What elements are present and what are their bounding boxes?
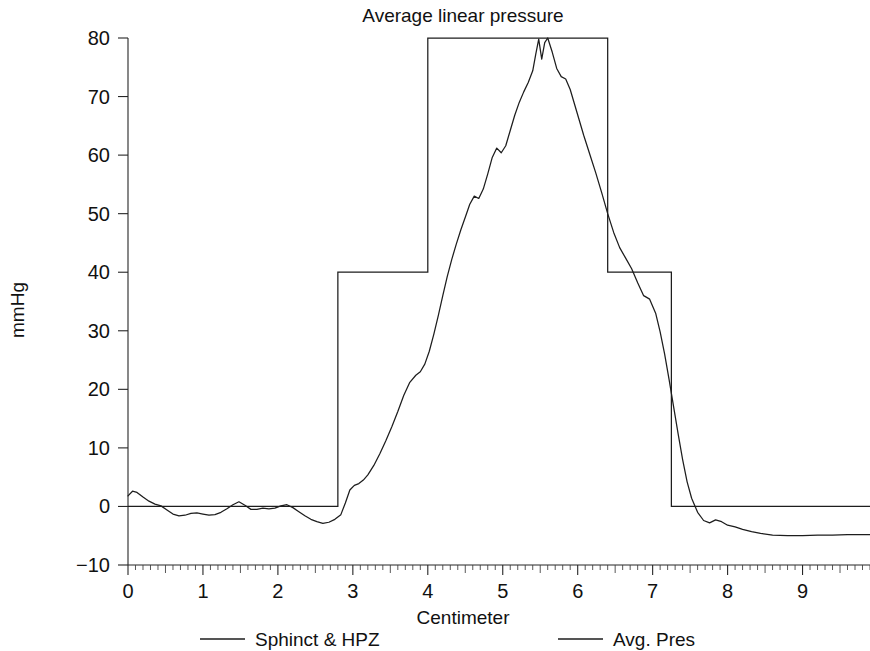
chart-title: Average linear pressure bbox=[362, 5, 563, 26]
series-avg-pres bbox=[128, 38, 870, 536]
chart-container: Average linear pressure mmHg Centimeter … bbox=[0, 0, 870, 651]
y-tick-label: 80 bbox=[88, 27, 110, 49]
x-tick-label: 3 bbox=[347, 580, 358, 602]
y-tick-label: −10 bbox=[76, 554, 110, 576]
y-tick-label: 20 bbox=[88, 378, 110, 400]
data-series-group bbox=[128, 38, 870, 536]
y-tick-label: 60 bbox=[88, 144, 110, 166]
x-tick-label: 0 bbox=[122, 580, 133, 602]
y-axis-label: mmHg bbox=[7, 282, 28, 338]
average-linear-pressure-chart: Average linear pressure mmHg Centimeter … bbox=[0, 0, 870, 651]
y-tick-label: 10 bbox=[88, 437, 110, 459]
legend-label-avg-pres: Avg. Pres bbox=[613, 629, 695, 650]
x-tick-label: 6 bbox=[572, 580, 583, 602]
y-axis-ticks: −1001020304050607080 bbox=[76, 27, 128, 576]
x-tick-label: 7 bbox=[647, 580, 658, 602]
chart-legend: Sphinct & HPZ Avg. Pres bbox=[200, 629, 695, 650]
x-tick-label: 1 bbox=[197, 580, 208, 602]
y-tick-label: 30 bbox=[88, 320, 110, 342]
x-tick-label: 2 bbox=[272, 580, 283, 602]
y-tick-label: 50 bbox=[88, 203, 110, 225]
y-tick-label: 40 bbox=[88, 261, 110, 283]
series-sphinct-hpz bbox=[128, 38, 870, 506]
x-axis-label: Centimeter bbox=[417, 607, 511, 628]
x-tick-label: 4 bbox=[422, 580, 433, 602]
y-tick-label: 0 bbox=[99, 495, 110, 517]
x-tick-label: 8 bbox=[722, 580, 733, 602]
x-tick-label: 5 bbox=[497, 580, 508, 602]
y-tick-label: 70 bbox=[88, 86, 110, 108]
legend-label-sphinct-hpz: Sphinct & HPZ bbox=[255, 629, 380, 650]
x-tick-label: 9 bbox=[797, 580, 808, 602]
